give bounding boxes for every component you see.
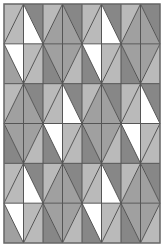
diamond-tiling-pattern: Diamond triangle tiling — [0, 0, 164, 247]
